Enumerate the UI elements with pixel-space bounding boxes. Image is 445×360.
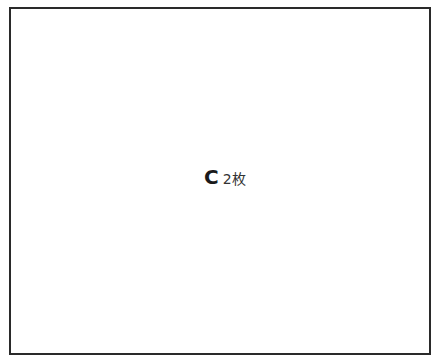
panel-label: C 2枚 — [204, 166, 246, 190]
label-letter: C — [204, 166, 219, 188]
label-count: 2枚 — [223, 168, 246, 190]
